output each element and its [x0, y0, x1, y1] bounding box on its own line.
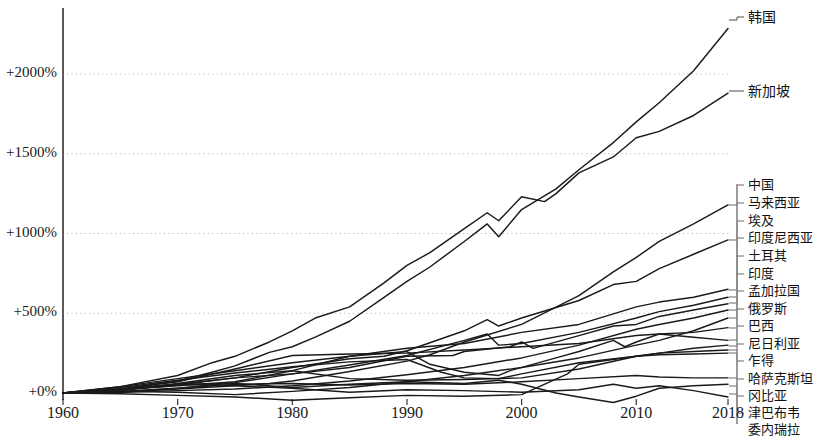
series-line[interactable]: [63, 289, 728, 393]
series-label-俄罗斯[interactable]: 俄罗斯: [748, 302, 787, 315]
series-label-印度[interactable]: 印度: [748, 267, 774, 280]
x-axis-tick-label: 1990: [367, 404, 447, 422]
series-label-哈萨克斯坦[interactable]: 哈萨克斯坦: [748, 372, 813, 385]
series-label-冈比亚[interactable]: 冈比亚: [748, 389, 787, 402]
series-label-委内瑞拉[interactable]: 委内瑞拉: [748, 423, 800, 436]
series-label-马来西亚[interactable]: 马来西亚: [748, 196, 800, 209]
y-axis-tick-label: +500%: [0, 303, 57, 320]
series-label-津巴布韦[interactable]: 津巴布韦: [748, 406, 800, 419]
series-line[interactable]: [63, 205, 728, 393]
leader-line-韩国: [729, 17, 744, 20]
series-line[interactable]: [63, 29, 728, 393]
series-label-韩国[interactable]: 韩国: [748, 10, 776, 24]
series-label-尼日利亚[interactable]: 尼日利亚: [748, 337, 800, 350]
series-label-印度尼西亚[interactable]: 印度尼西亚: [748, 231, 813, 244]
series-label-埃及[interactable]: 埃及: [748, 214, 774, 227]
series-label-乍得[interactable]: 乍得: [748, 354, 774, 367]
y-axis-tick-label: +0%: [0, 383, 57, 400]
series-line[interactable]: [63, 93, 728, 393]
y-axis-tick-label: +2000%: [0, 64, 57, 81]
leader-line-尼日利亚: [729, 344, 744, 346]
y-axis-tick-label: +1000%: [0, 224, 57, 241]
x-axis-tick-label: 1980: [252, 404, 332, 422]
x-axis-tick-label: 1960: [23, 404, 103, 422]
leader-line-中国: [729, 185, 744, 205]
x-axis-tick-label: 2010: [596, 404, 676, 422]
x-axis-tick-label: 1970: [138, 404, 218, 422]
leader-line-哈萨克斯坦: [729, 353, 744, 379]
x-axis-tick-label: 2000: [482, 404, 562, 422]
series-label-新加坡[interactable]: 新加坡: [748, 84, 790, 98]
series-label-孟加拉国[interactable]: 孟加拉国: [748, 284, 800, 297]
series-label-巴西[interactable]: 巴西: [748, 319, 774, 332]
y-axis-tick-label: +1500%: [0, 144, 57, 161]
series-label-土耳其[interactable]: 土耳其: [748, 249, 787, 262]
series-label-中国[interactable]: 中国: [748, 178, 774, 191]
